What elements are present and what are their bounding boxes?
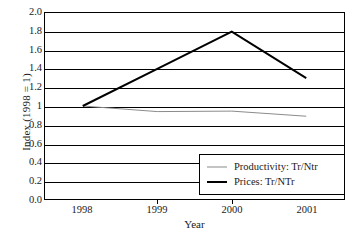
plot-area: Productivity: Tr/NtrPrices: Tr/NTr xyxy=(44,12,345,200)
y-axis-tick-label: 2.0 xyxy=(2,7,42,17)
y-axis-tick-label: 1.2 xyxy=(2,82,42,92)
x-axis-tick-mark xyxy=(157,200,158,204)
x-axis-tick-label: 1998 xyxy=(52,204,112,215)
chart-figure: Index (1998 = 1) Productivity: Tr/NtrPri… xyxy=(0,0,356,238)
y-axis-tick-label: 1 xyxy=(2,101,42,111)
x-axis-tick-label: 2001 xyxy=(277,204,337,215)
y-axis-tick-label: 0.8 xyxy=(2,120,42,130)
x-axis-tick-mark xyxy=(232,200,233,204)
legend-swatch-icon xyxy=(207,162,227,172)
legend-swatch-icon xyxy=(207,177,227,187)
y-axis-tick-label: 1.6 xyxy=(2,45,42,55)
y-axis-tick-label: 0.6 xyxy=(2,139,42,149)
series-line-productivity xyxy=(83,106,307,116)
legend-item[interactable]: Prices: Tr/NTr xyxy=(200,174,344,189)
y-axis-title: Index (1998 = 1) xyxy=(20,32,32,192)
y-axis-tick-label: 1.8 xyxy=(2,26,42,36)
x-axis-tick-label: 2000 xyxy=(202,204,262,215)
caption-text-sliver xyxy=(6,230,350,238)
legend-item-label: Productivity: Tr/Ntr xyxy=(234,161,318,172)
legend-item-label: Prices: Tr/NTr xyxy=(234,176,295,187)
y-axis-tick-label: 0.4 xyxy=(2,157,42,167)
y-axis-tick-label: 0.2 xyxy=(2,176,42,186)
y-axis-tick-label: 1.4 xyxy=(2,63,42,73)
series-line-prices xyxy=(83,32,307,106)
x-axis-tick-label: 1999 xyxy=(127,204,187,215)
x-axis-title: Year xyxy=(44,218,345,230)
chart-legend: Productivity: Tr/NtrPrices: Tr/NTr xyxy=(199,154,345,195)
y-axis-tick-label: 0.0 xyxy=(2,195,42,205)
legend-item[interactable]: Productivity: Tr/Ntr xyxy=(200,159,344,174)
